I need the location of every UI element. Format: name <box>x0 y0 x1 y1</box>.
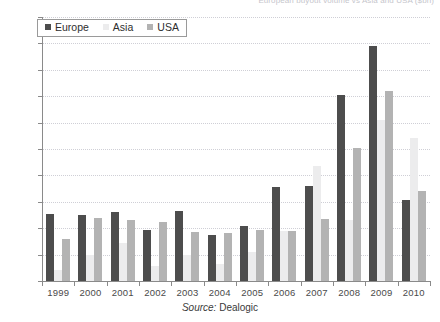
x-tick-mark-end <box>430 281 431 286</box>
legend-swatch-asia-icon <box>103 24 109 30</box>
bar-usa-2002 <box>159 222 167 281</box>
x-tick-mark-2003 <box>171 281 172 286</box>
bar-asia-2007 <box>313 166 321 281</box>
bar-usa-2000 <box>94 218 102 281</box>
bar-usa-2009 <box>385 91 393 281</box>
bar-europe-2010 <box>402 200 410 281</box>
x-tick-mark-2000 <box>74 281 75 286</box>
bar-usa-2008 <box>353 148 361 281</box>
bar-asia-1999 <box>54 270 62 281</box>
bar-europe-2008 <box>337 95 345 281</box>
legend-label: USA <box>157 22 179 33</box>
legend-item-usa[interactable]: USA <box>147 22 179 33</box>
bar-europe-2004 <box>208 235 216 281</box>
bar-asia-2001 <box>119 243 127 281</box>
bar-group-2001 <box>107 17 139 281</box>
bar-europe-2001 <box>111 212 119 281</box>
bar-group-2004 <box>204 17 236 281</box>
x-tick-mark-2004 <box>204 281 205 286</box>
bar-group-2005 <box>236 17 268 281</box>
y-tick-mark-140 <box>38 96 42 97</box>
legend-item-europe[interactable]: Europe <box>45 22 89 33</box>
bar-usa-2004 <box>224 233 232 281</box>
source-value: Dealogic <box>219 302 258 313</box>
source-caption: Source: Dealogic <box>0 302 440 313</box>
y-tick-mark-200 <box>38 17 42 18</box>
y-tick-mark-180 <box>38 43 42 44</box>
chart-legend: EuropeAsiaUSA <box>37 19 187 37</box>
bar-asia-2006 <box>280 231 288 281</box>
bar-europe-2002 <box>143 230 151 281</box>
y-tick-mark-80 <box>38 175 42 176</box>
bar-usa-2010 <box>418 191 426 281</box>
bar-group-2007 <box>301 17 333 281</box>
source-label: Source: <box>182 302 216 313</box>
legend-swatch-usa-icon <box>147 24 153 30</box>
y-tick-mark-40 <box>38 228 42 229</box>
bar-group-2002 <box>139 17 171 281</box>
bar-asia-2002 <box>151 266 159 281</box>
bar-group-2010 <box>398 17 430 281</box>
plot-inner <box>42 17 430 281</box>
y-axis-line <box>42 17 43 282</box>
bar-group-1999 <box>42 17 74 281</box>
bar-asia-2004 <box>216 264 224 281</box>
bar-europe-1999 <box>46 214 54 281</box>
bar-group-2003 <box>171 17 203 281</box>
bar-usa-2001 <box>127 220 135 281</box>
x-tick-mark-2002 <box>139 281 140 286</box>
bar-europe-2003 <box>175 211 183 281</box>
legend-item-asia[interactable]: Asia <box>103 22 133 33</box>
plot-area <box>42 17 430 281</box>
bar-europe-2009 <box>369 46 377 281</box>
bar-group-2000 <box>74 17 106 281</box>
bar-asia-2008 <box>345 220 353 281</box>
bar-europe-2005 <box>240 226 248 281</box>
bar-asia-2009 <box>377 120 385 281</box>
bar-group-2006 <box>268 17 300 281</box>
y-tick-mark-20 <box>38 255 42 256</box>
x-tick-mark-1999 <box>42 281 43 286</box>
bar-europe-2006 <box>272 187 280 281</box>
bar-usa-2007 <box>321 219 329 281</box>
bar-europe-2007 <box>305 186 313 281</box>
x-tick-mark-2009 <box>365 281 366 286</box>
bar-usa-2006 <box>288 231 296 281</box>
bar-chart-figure: European buyout volume vs Asia and USA (… <box>0 0 440 322</box>
y-tick-mark-100 <box>38 149 42 150</box>
bar-asia-2003 <box>183 255 191 281</box>
x-tick-mark-2007 <box>301 281 302 286</box>
y-tick-mark-60 <box>38 202 42 203</box>
bar-usa-1999 <box>62 239 70 281</box>
x-tick-mark-2001 <box>107 281 108 286</box>
x-tick-mark-2010 <box>398 281 399 286</box>
legend-swatch-europe-icon <box>45 24 51 30</box>
bar-asia-2000 <box>86 255 94 281</box>
bar-europe-2000 <box>78 215 86 281</box>
legend-label: Asia <box>113 22 133 33</box>
bar-asia-2005 <box>248 252 256 281</box>
x-tick-mark-2005 <box>236 281 237 286</box>
bar-usa-2003 <box>191 232 199 281</box>
bar-usa-2005 <box>256 230 264 281</box>
x-tick-mark-2008 <box>333 281 334 286</box>
bar-group-2008 <box>333 17 365 281</box>
x-tick-mark-2006 <box>268 281 269 286</box>
legend-label: Europe <box>55 22 89 33</box>
bar-asia-2010 <box>410 138 418 281</box>
y-tick-mark-160 <box>38 70 42 71</box>
y-tick-mark-120 <box>38 123 42 124</box>
x-axis-tick-label: 2010 <box>391 287 437 298</box>
bar-group-2009 <box>365 17 397 281</box>
chart-title: European buyout volume vs Asia and USA (… <box>258 0 434 5</box>
